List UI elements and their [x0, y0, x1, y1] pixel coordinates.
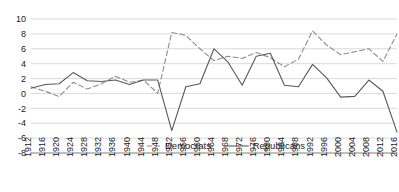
y-axis-tick-labels: 1086420-2-4-6-8 — [16, 14, 26, 158]
x-tick-label: 1936 — [107, 137, 117, 157]
y-tick-label: 8 — [21, 29, 26, 39]
y-gridlines — [31, 19, 397, 153]
x-tick-label: 1912 — [23, 137, 33, 157]
line-chart: 1086420-2-4-6-8 191219161920192419281932… — [0, 0, 399, 192]
chart-plot-area: 1086420-2-4-6-8 191219161920192419281932… — [0, 0, 399, 192]
x-tick-label: 1924 — [65, 137, 75, 157]
data-series-group — [31, 31, 397, 132]
x-tick-label: 1940 — [122, 137, 132, 157]
y-tick-label: -2 — [18, 104, 26, 114]
x-tick-label: 1916 — [37, 137, 47, 157]
y-tick-label: 4 — [21, 59, 26, 69]
x-tick-label: 1968 — [220, 137, 230, 157]
x-tick-label: 1972 — [234, 137, 244, 157]
x-tick-label: 1920 — [51, 137, 61, 157]
x-tick-label: 2012 — [375, 137, 385, 157]
y-tick-label: 10 — [16, 14, 26, 24]
legend-label-republicans: Republicans — [253, 140, 306, 151]
x-tick-label: 2004 — [347, 137, 357, 157]
x-tick-label: 1992 — [305, 137, 315, 157]
x-tick-label: 1948 — [150, 137, 160, 157]
x-tick-label: 2008 — [361, 137, 371, 157]
x-tick-label: 1944 — [136, 137, 146, 157]
x-tick-label: 2016 — [389, 137, 399, 157]
x-tick-label: 2000 — [333, 137, 343, 157]
x-axis-tick-labels: 1912191619201924192819321936194019441948… — [23, 137, 399, 157]
y-tick-label: 0 — [21, 89, 26, 99]
legend-label-democrats: Democrats — [165, 140, 211, 151]
x-tick-label: 1996 — [319, 137, 329, 157]
y-tick-label: -4 — [18, 118, 26, 128]
series-line-republicans — [31, 49, 397, 132]
y-tick-label: 6 — [21, 44, 26, 54]
y-tick-label: 2 — [21, 74, 26, 84]
x-tick-label: 1928 — [79, 137, 89, 157]
x-tick-label: 1932 — [93, 137, 103, 157]
